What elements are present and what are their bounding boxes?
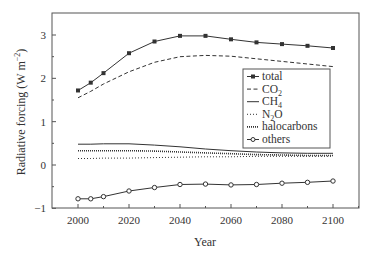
y-axis-label: Radiative forcing (W m−2) [13,49,28,176]
y-tick-label: 1 [41,116,47,128]
y-tick-label: 3 [41,29,47,41]
x-tick-label: 2100 [322,214,345,226]
circle-marker [89,197,93,201]
circle-marker [203,182,207,186]
circle-marker [178,182,182,186]
x-axis: 200020202040206020802100 [67,204,359,226]
circle-marker [76,197,80,201]
y-axis: −10123 [34,29,56,214]
square-marker [102,71,106,75]
square-marker [153,40,157,44]
legend-label: others [262,133,291,145]
y-tick-label: 2 [41,72,47,84]
x-tick-label: 2000 [67,214,90,226]
legend-circle-marker [251,138,255,142]
square-marker [89,81,93,85]
legend-square-marker [251,75,255,79]
square-marker [204,34,208,38]
series-n2o-line [78,156,333,158]
circle-marker [152,185,156,189]
square-marker [306,44,310,48]
legend-label: total [262,70,282,82]
x-tick-label: 2080 [271,214,294,226]
circle-marker [305,180,309,184]
square-marker [178,34,182,38]
legend-label: halocarbons [262,120,318,132]
circle-marker [229,183,233,187]
circle-marker [280,181,284,185]
x-tick-label: 2060 [220,214,243,226]
radiative-forcing-chart: −10123 200020202040206020802100 Year Rad… [0,0,374,254]
x-axis-label: Year [194,235,216,249]
square-marker [127,51,131,55]
square-marker [229,37,233,41]
circle-marker [101,194,105,198]
square-marker [76,88,80,92]
legend: totalCO2CH4N2Ohalocarbonsothers [243,69,330,148]
square-marker [255,40,259,44]
circle-marker [127,189,131,193]
circle-marker [331,179,335,183]
y-tick-label: 0 [41,159,47,171]
square-marker [331,46,335,50]
square-marker [280,42,284,46]
circle-marker [254,182,258,186]
x-tick-label: 2040 [169,214,192,226]
y-tick-label: −1 [34,202,46,214]
x-tick-label: 2020 [118,214,141,226]
